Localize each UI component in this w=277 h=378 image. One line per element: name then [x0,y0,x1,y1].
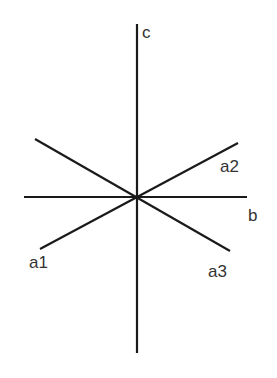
label-a2: a2 [220,157,239,176]
origin-point [135,195,139,199]
label-c: c [142,23,151,42]
axes-diagram: c b a2 a3 a1 [0,0,277,378]
label-a3: a3 [208,262,227,281]
label-a1: a1 [29,253,48,272]
label-b: b [248,206,257,225]
axis-a3-line [35,139,230,251]
